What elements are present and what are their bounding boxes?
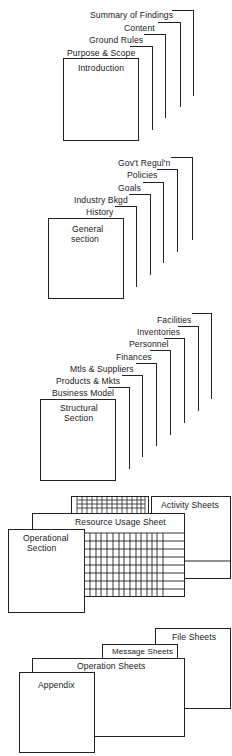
label-structural-line2: Section (64, 413, 93, 423)
label-activity-sheets: Activity Sheets (161, 500, 219, 510)
label-history: History (86, 207, 113, 217)
label-business-model: Business Model (52, 388, 114, 398)
label-mtls-suppliers: Mtls & Suppliers (70, 364, 134, 374)
label-introduction: Introduction (78, 63, 124, 73)
label-govt-regulation: Gov't Regul'n (118, 158, 170, 168)
label-appendix: Appendix (38, 680, 75, 690)
label-operational-line1: Operational (23, 533, 69, 543)
label-resource-usage-sheet: Resource Usage Sheet (75, 517, 166, 527)
label-general-line2: section (71, 234, 99, 244)
label-message-sheets: Message Sheets (112, 647, 173, 657)
label-personnel: Personnel (129, 339, 169, 349)
label-policies: Policies (127, 170, 157, 180)
label-purpose-scope: Purpose & Scope (67, 48, 135, 58)
label-operational-line2: Section (27, 543, 56, 553)
label-inventories: Inventories (137, 327, 180, 337)
label-industry-bkgd: Industry Bkgd (74, 195, 128, 205)
label-file-sheets: File Sheets (172, 632, 216, 642)
label-general-line1: General (72, 224, 103, 234)
label-finances: Finances (116, 352, 152, 362)
label-operation-sheets: Operation Sheets (77, 661, 145, 671)
label-goals: Goals (118, 183, 141, 193)
label-structural-line1: Structural (60, 403, 98, 413)
label-summary-of-findings: Summary of Findings (90, 10, 173, 20)
label-facilities: Facilities (157, 315, 191, 325)
label-products-mkts: Products & Mkts (56, 376, 120, 386)
label-ground-rules: Ground Rules (89, 35, 143, 45)
label-content: Content (124, 23, 155, 33)
